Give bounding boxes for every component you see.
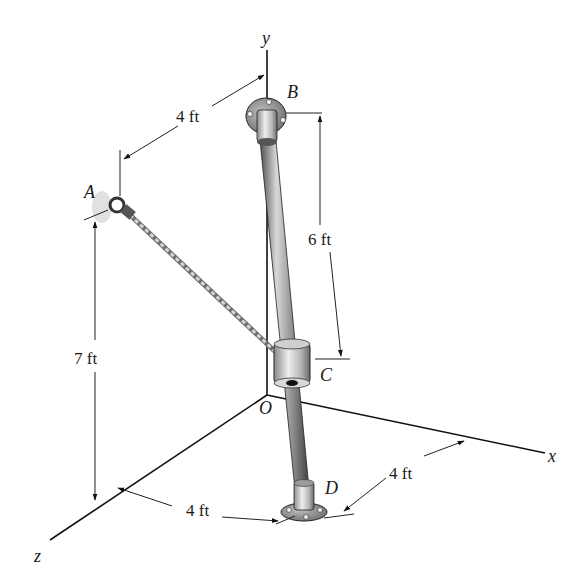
dimension-label-b-to-c: 6 ft: [308, 230, 331, 249]
eyebolt-a: [92, 191, 136, 223]
z-axis-label: z: [33, 546, 41, 565]
dimension-label-a-to-y: 4 ft: [176, 107, 199, 126]
point-b-label: B: [287, 82, 298, 102]
dimension-label-d-along-z: 4 ft: [186, 501, 209, 520]
x-axis: [267, 395, 545, 453]
dimension-label-d-along-x: 4 ft: [389, 464, 412, 483]
x-axis-label: x: [547, 446, 556, 466]
collar-c: [274, 339, 310, 388]
point-a-label: A: [83, 182, 96, 202]
origin-label: O: [259, 398, 272, 418]
flange-bracket-d: [281, 480, 327, 522]
dimension-d-along-x: 4 ft: [324, 441, 464, 518]
dimension-d-along-z: 4 ft: [118, 488, 295, 524]
y-axis-label: y: [260, 28, 270, 48]
point-d-label: D: [324, 478, 338, 498]
point-c-label: C: [320, 365, 333, 385]
cable-ac: [130, 215, 282, 358]
diagram-canvas: y x z O: [0, 0, 585, 565]
dimension-label-a-height: 7 ft: [74, 349, 97, 368]
dimension-b-to-c: 6 ft: [286, 113, 350, 359]
dimension-a-to-y: 4 ft: [120, 75, 264, 196]
rod-bd: [258, 120, 311, 510]
dimension-a-height: 7 ft: [74, 210, 108, 500]
flange-bracket-b: [246, 98, 286, 146]
